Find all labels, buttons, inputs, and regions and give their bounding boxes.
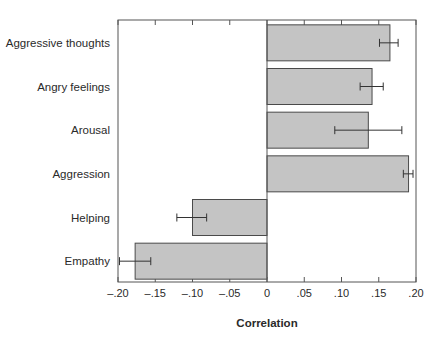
x-tick-label: .05 [297,287,312,299]
category-label: Angry feelings [37,81,110,93]
correlation-bar-chart: –.20–.15–.10–.050.05.10.15.20Aggressive … [0,0,443,339]
x-tick-label: .20 [408,287,423,299]
x-tick-label: .15 [371,287,386,299]
x-tick-label: –.20 [107,287,128,299]
x-tick-label: –.10 [182,287,203,299]
bar [135,243,267,279]
category-label: Arousal [71,124,110,136]
x-tick-label: 0 [264,287,270,299]
bar [267,69,372,105]
bar [267,25,390,61]
category-label: Helping [71,212,110,224]
category-label: Aggression [52,168,110,180]
x-tick-label: –.05 [219,287,240,299]
category-label: Empathy [65,255,110,267]
bar [267,156,409,192]
x-tick-label: .10 [334,287,349,299]
x-axis-label: Correlation [236,317,297,329]
x-tick-label: –.15 [145,287,166,299]
category-label: Aggressive thoughts [6,37,110,49]
